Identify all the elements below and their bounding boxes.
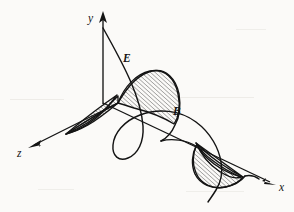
z-axis-label: z [16, 147, 22, 159]
b-field-lobe-positive-1 [118, 71, 179, 124]
b-field-label: B [172, 105, 181, 117]
y-axis-label: y [87, 12, 94, 25]
em-wave-figure: y z x E B [0, 0, 294, 212]
x-axis-label: x [278, 181, 285, 193]
x-axis [103, 103, 276, 185]
z-axis-arrowhead [28, 140, 41, 148]
e-field-label: E [122, 52, 131, 64]
em-wave-diagram: y z x E B [0, 0, 294, 212]
y-axis [99, 11, 107, 104]
b-field-lobe-negative-1 [66, 95, 118, 134]
